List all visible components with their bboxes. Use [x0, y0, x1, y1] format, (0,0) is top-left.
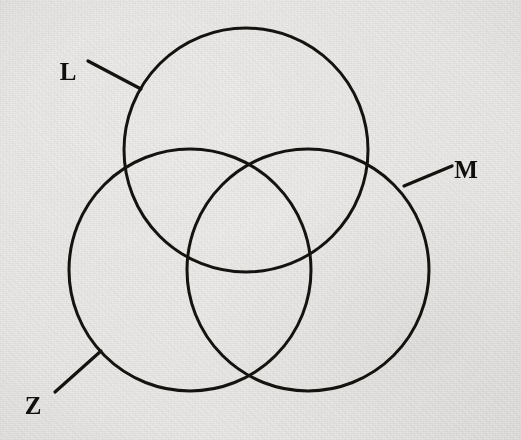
- leader-line-z: [55, 351, 101, 392]
- leader-line-m: [404, 166, 452, 186]
- set-label-l: L: [60, 58, 77, 85]
- venn-diagram-figure: L M Z: [0, 0, 521, 440]
- venn-diagram-canvas: L M Z: [0, 0, 521, 440]
- set-label-z: Z: [25, 392, 42, 419]
- leader-line-l: [88, 61, 141, 89]
- set-label-m: M: [454, 156, 478, 183]
